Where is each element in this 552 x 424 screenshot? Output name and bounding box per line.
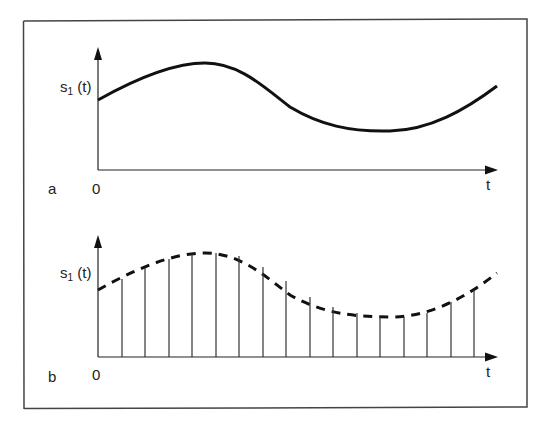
x-axis-arrow-icon bbox=[485, 166, 498, 175]
sampling-diagram: s1 (t) 0 t a s1 ( bbox=[0, 0, 552, 424]
x-axis-label-t: t bbox=[486, 363, 491, 380]
panel-b: s1 (t) 0 t b bbox=[48, 235, 498, 385]
panel-label: a bbox=[48, 180, 57, 197]
x-axis-arrow-icon bbox=[485, 353, 498, 362]
panel-label: b bbox=[48, 368, 56, 385]
y-axis-label: s1 (t) bbox=[60, 78, 91, 97]
y-axis-label: s1 (t) bbox=[60, 264, 91, 283]
sample-lines bbox=[122, 253, 474, 357]
panel-a: s1 (t) 0 t a bbox=[48, 47, 498, 197]
y-axis-arrow-icon bbox=[94, 47, 102, 60]
x-axis-label-t: t bbox=[486, 176, 491, 193]
figure-border bbox=[24, 20, 252, 409]
origin-label: 0 bbox=[92, 366, 100, 383]
signal-curve-dashed bbox=[98, 253, 497, 317]
origin-label: 0 bbox=[92, 180, 100, 197]
y-axis-arrow-icon bbox=[94, 235, 102, 248]
figure-border-right bbox=[251, 19, 527, 408]
signal-curve bbox=[98, 63, 497, 131]
